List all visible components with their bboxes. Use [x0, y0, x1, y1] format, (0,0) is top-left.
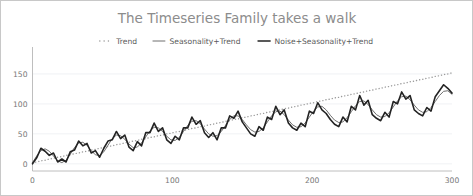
y-tick-label-1: 50 [18, 130, 28, 139]
chart-figure: The Timeseries Family takes a walk Trend… [0, 0, 473, 196]
legend-item-0[interactable]: Trend [100, 37, 137, 46]
legend-item-2[interactable]: Noise+Seasonality+Trend [258, 37, 373, 46]
y-axis-tick-labels: 050100150 [13, 70, 28, 169]
y-tick-label-3: 150 [13, 70, 28, 79]
chart-title: The Timeseries Family takes a walk [117, 10, 357, 26]
legend-label-1: Seasonality+Trend [169, 37, 240, 46]
x-tick-label-1: 100 [165, 176, 180, 185]
x-tick-label-2: 200 [305, 176, 320, 185]
chart-canvas: The Timeseries Family takes a walk Trend… [1, 1, 473, 196]
series-path-2 [33, 85, 453, 164]
y-tick-label-0: 0 [23, 160, 28, 169]
x-axis-tick-labels: 0100200300 [30, 176, 459, 185]
y-tick-label-2: 100 [13, 100, 28, 109]
chart-legend: TrendSeasonality+TrendNoise+Seasonality+… [100, 37, 373, 46]
x-tick-label-3: 300 [445, 176, 460, 185]
legend-item-1[interactable]: Seasonality+Trend [153, 37, 241, 46]
data-series [33, 73, 453, 164]
legend-label-0: Trend [115, 37, 137, 46]
axis-spines [33, 47, 453, 171]
x-tick-label-0: 0 [30, 176, 35, 185]
legend-label-2: Noise+Seasonality+Trend [275, 37, 374, 46]
